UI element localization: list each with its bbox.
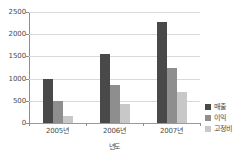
legend-swatch-icon — [205, 115, 211, 121]
x-tick-mark — [29, 123, 30, 126]
bar[interactable] — [167, 68, 177, 124]
legend-label: 고정비 — [214, 125, 231, 133]
chart-legend: 매출이익고정비 — [205, 101, 248, 134]
y-tick-label: 1000 — [0, 75, 26, 82]
bar-chart: 25002000150010005000 2005년2006년2007년 년도 … — [0, 0, 248, 162]
plot-area — [29, 12, 200, 123]
legend-item[interactable]: 이익 — [205, 112, 248, 123]
x-tick-label: 2007년 — [145, 127, 199, 135]
bar-group — [43, 12, 73, 123]
gridline — [29, 123, 200, 124]
y-tick-label: 0 — [0, 120, 26, 127]
bar[interactable] — [63, 116, 73, 123]
bar[interactable] — [120, 104, 130, 123]
y-tick-label: 2500 — [0, 9, 26, 16]
x-tick-mark — [86, 123, 87, 126]
x-tick-label: 2006년 — [88, 127, 142, 135]
legend-swatch-icon — [205, 104, 211, 110]
bar[interactable] — [157, 22, 167, 123]
legend-swatch-icon — [205, 126, 211, 132]
y-tick-label: 2000 — [0, 31, 26, 38]
bar[interactable] — [53, 101, 63, 123]
bar[interactable] — [100, 54, 110, 123]
y-tick-label: 1500 — [0, 53, 26, 60]
x-axis-title: 년도 — [29, 141, 200, 151]
legend-label: 매출 — [214, 103, 226, 111]
bar-group — [100, 12, 130, 123]
legend-item[interactable]: 매출 — [205, 101, 248, 112]
x-tick-mark — [143, 123, 144, 126]
bar[interactable] — [43, 79, 53, 123]
bar-group — [157, 12, 187, 123]
x-tick-label: 2005년 — [31, 127, 85, 135]
y-tick-label: 500 — [0, 97, 26, 104]
bar[interactable] — [177, 92, 187, 123]
bar[interactable] — [110, 85, 120, 123]
legend-item[interactable]: 고정비 — [205, 123, 248, 134]
legend-label: 이익 — [214, 114, 226, 122]
x-tick-mark — [200, 123, 201, 126]
